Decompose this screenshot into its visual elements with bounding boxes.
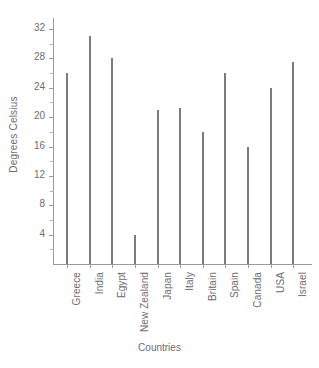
x-label-britain: Britain bbox=[207, 272, 218, 301]
bar-india bbox=[89, 36, 91, 264]
y-tick-20: 20 bbox=[49, 117, 54, 118]
y-minor-tick-30 bbox=[50, 44, 54, 45]
y-minor-tick-14 bbox=[50, 161, 54, 162]
y-tick-label-28: 28 bbox=[34, 51, 45, 62]
y-tick-label-12: 12 bbox=[34, 169, 45, 180]
bar-chart: Degrees Celsius 48121620242832 GreeceInd… bbox=[0, 0, 319, 368]
x-label-japan: Japan bbox=[162, 272, 173, 300]
x-tick-israel bbox=[293, 264, 294, 268]
bar-greece bbox=[66, 73, 68, 264]
y-axis-title: Degrees Celsius bbox=[0, 0, 26, 268]
x-tick-italy bbox=[180, 264, 181, 268]
bar-usa bbox=[270, 88, 272, 264]
x-tick-usa bbox=[271, 264, 272, 268]
y-tick-24: 24 bbox=[49, 88, 54, 89]
y-minor-tick-2 bbox=[50, 249, 54, 250]
y-tick-label-8: 8 bbox=[39, 198, 45, 209]
y-minor-tick-22 bbox=[50, 102, 54, 103]
y-minor-tick-10 bbox=[50, 191, 54, 192]
y-minor-tick-6 bbox=[50, 220, 54, 221]
x-label-greece: Greece bbox=[71, 272, 82, 305]
bar-new-zealand bbox=[134, 235, 136, 264]
x-tick-spain bbox=[225, 264, 226, 268]
x-tick-canada bbox=[248, 264, 249, 268]
bar-israel bbox=[292, 62, 294, 264]
y-minor-tick-18 bbox=[50, 132, 54, 133]
y-tick-label-24: 24 bbox=[34, 81, 45, 92]
y-tick-label-16: 16 bbox=[34, 140, 45, 151]
x-label-usa: USA bbox=[275, 272, 286, 293]
bar-japan bbox=[157, 110, 159, 264]
x-label-italy: Italy bbox=[184, 272, 195, 291]
bar-spain bbox=[224, 73, 226, 264]
bar-italy bbox=[179, 108, 181, 264]
y-tick-12: 12 bbox=[49, 176, 54, 177]
y-tick-16: 16 bbox=[49, 147, 54, 148]
y-tick-4: 4 bbox=[49, 235, 54, 236]
x-label-egypt: Egypt bbox=[116, 272, 127, 298]
x-axis-title: Countries bbox=[0, 342, 319, 353]
x-axis-line bbox=[53, 264, 312, 265]
y-tick-8: 8 bbox=[49, 205, 54, 206]
x-label-canada: Canada bbox=[252, 272, 263, 308]
x-tick-greece bbox=[67, 264, 68, 268]
y-axis-title-text: Degrees Celsius bbox=[8, 96, 19, 172]
plot-area: 48121620242832 GreeceIndiaEgyptNew Zeala… bbox=[53, 18, 312, 264]
x-tick-new-zealand bbox=[135, 264, 136, 268]
x-label-new-zealand: New Zealand bbox=[139, 272, 150, 332]
x-label-spain: Spain bbox=[229, 272, 240, 298]
bar-britain bbox=[202, 132, 204, 264]
bar-egypt bbox=[111, 58, 113, 264]
y-tick-label-4: 4 bbox=[39, 228, 45, 239]
x-tick-japan bbox=[158, 264, 159, 268]
x-tick-india bbox=[90, 264, 91, 268]
bar-canada bbox=[247, 147, 249, 264]
x-label-israel: Israel bbox=[297, 272, 308, 297]
y-tick-label-32: 32 bbox=[34, 22, 45, 33]
y-tick-28: 28 bbox=[49, 58, 54, 59]
y-tick-32: 32 bbox=[49, 29, 54, 30]
y-axis-line bbox=[53, 18, 54, 264]
x-label-india: India bbox=[94, 272, 105, 294]
y-minor-tick-26 bbox=[50, 73, 54, 74]
y-tick-label-20: 20 bbox=[34, 110, 45, 121]
x-tick-britain bbox=[203, 264, 204, 268]
x-tick-egypt bbox=[112, 264, 113, 268]
